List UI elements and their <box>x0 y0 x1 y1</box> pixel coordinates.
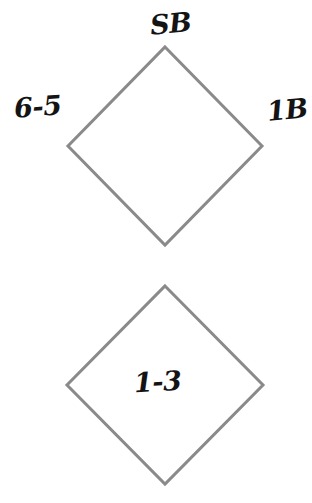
diagram-canvas: SB 6-5 1B 1-3 <box>0 0 312 503</box>
top-diamond-top-label: SB <box>149 8 193 38</box>
top-diamond-left-label: 6-5 <box>13 91 62 121</box>
bottom-diamond-inner-label: 1-3 <box>133 367 182 396</box>
top-diamond-shape[interactable] <box>68 47 262 245</box>
top-diamond-right-label: 1B <box>266 94 309 125</box>
diamond-shapes-layer <box>0 0 312 503</box>
